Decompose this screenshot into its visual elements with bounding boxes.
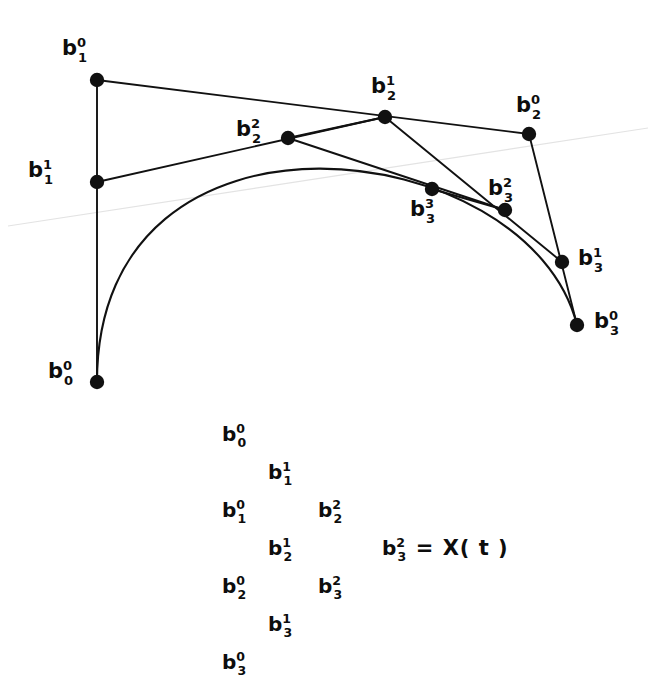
label-superscript: 1 xyxy=(43,157,52,172)
label-base: b xyxy=(516,93,531,117)
point-label-b-1-0: b01 xyxy=(62,38,95,62)
label-superscript: 0 xyxy=(236,649,245,664)
point-label-b-0-0: b00 xyxy=(48,361,81,385)
label-superscript: 1 xyxy=(282,535,291,550)
point-label-b-2-0: b02 xyxy=(516,95,549,119)
label-base: b xyxy=(318,498,332,522)
scheme-entry-7: b13 xyxy=(268,614,300,638)
point-label-b-3-1: b13 xyxy=(578,248,611,272)
label-base: b xyxy=(48,359,63,383)
label-equals-xt: = X( t ) xyxy=(416,536,509,560)
label-superscript: 0 xyxy=(609,308,618,323)
scheme-entry-1: b11 xyxy=(268,462,300,486)
label-base: b xyxy=(410,197,425,221)
control-point-dot-b-2-2 xyxy=(281,131,295,145)
label-subscript: 1 xyxy=(44,172,53,187)
scheme-result-equals-xt: b23= X( t ) xyxy=(382,538,509,562)
label-subscript: 3 xyxy=(284,625,293,640)
label-subscript: 3 xyxy=(238,663,247,678)
label-superscript: 0 xyxy=(236,497,245,512)
label-base: b xyxy=(578,246,593,270)
label-base: b xyxy=(62,36,77,60)
label-superscript: 0 xyxy=(531,92,540,107)
label-subscript: 3 xyxy=(426,211,435,226)
label-base: b xyxy=(222,574,236,598)
label-subscript: 2 xyxy=(387,88,396,103)
point-label-b-3-2: b23 xyxy=(488,178,521,202)
control-polygon-level-2 xyxy=(288,138,505,210)
label-subscript: 2 xyxy=(334,511,343,526)
point-label-b-1-1: b11 xyxy=(28,160,61,184)
label-superscript: 2 xyxy=(396,535,405,550)
label-base: b xyxy=(371,74,386,98)
label-subscript: 3 xyxy=(610,323,619,338)
label-base: b xyxy=(222,650,236,674)
control-point-dot-b-2-1 xyxy=(378,110,392,124)
label-superscript: 2 xyxy=(332,573,341,588)
label-subscript: 2 xyxy=(252,131,261,146)
scheme-entry-2: b01 xyxy=(222,500,254,524)
label-superscript: 0 xyxy=(236,573,245,588)
label-superscript: 1 xyxy=(282,459,291,474)
scheme-entry-0: b00 xyxy=(222,424,254,448)
label-base: b xyxy=(222,422,236,446)
label-subscript: 1 xyxy=(284,473,293,488)
label-superscript: 0 xyxy=(236,421,245,436)
label-subscript: 0 xyxy=(64,373,73,388)
label-subscript: 2 xyxy=(238,587,247,602)
label-base: b xyxy=(268,536,282,560)
control-point-dot-b-1-1 xyxy=(90,175,104,189)
scheme-entry-6: b23 xyxy=(318,576,350,600)
label-superscript: 2 xyxy=(251,116,260,131)
label-base: b xyxy=(28,158,43,182)
control-point-dot-b-3-0 xyxy=(570,318,584,332)
label-subscript: 2 xyxy=(284,549,293,564)
scheme-entry-5: b02 xyxy=(222,576,254,600)
label-base: b xyxy=(594,309,609,333)
label-superscript: 2 xyxy=(503,175,512,190)
label-superscript: 0 xyxy=(77,35,86,50)
label-superscript: 2 xyxy=(332,497,341,512)
control-point-dot-b-1-0 xyxy=(90,73,104,87)
label-superscript: 3 xyxy=(425,196,434,211)
label-base: b xyxy=(268,612,282,636)
label-superscript: 0 xyxy=(63,358,72,373)
point-label-b-2-2: b22 xyxy=(236,119,269,143)
label-base: b xyxy=(382,536,396,560)
point-label-b-2-1: b12 xyxy=(371,76,404,100)
label-subscript: 1 xyxy=(78,50,87,65)
scheme-entry-3: b22 xyxy=(318,500,350,524)
bezier-de-casteljau-figure: b00b01b02b03b11b12b13b22b23b33 b00b11b01… xyxy=(0,0,648,680)
label-subscript: 3 xyxy=(594,260,603,275)
label-subscript: 1 xyxy=(238,511,247,526)
label-base: b xyxy=(318,574,332,598)
label-base: b xyxy=(236,117,251,141)
label-subscript: 0 xyxy=(238,435,247,450)
label-base: b xyxy=(268,460,282,484)
label-subscript: 2 xyxy=(532,107,541,122)
control-point-dot-b-3-1 xyxy=(555,255,569,269)
label-superscript: 1 xyxy=(282,611,291,626)
label-subscript: 3 xyxy=(504,190,513,205)
control-point-dot-b-2-0 xyxy=(522,127,536,141)
label-superscript: 1 xyxy=(593,245,602,260)
control-point-dot-b-3-3 xyxy=(425,182,439,196)
label-base: b xyxy=(222,498,236,522)
label-subscript: 3 xyxy=(334,587,343,602)
point-label-b-3-3: b33 xyxy=(410,199,443,223)
label-base: b xyxy=(488,176,503,200)
label-subscript: 3 xyxy=(398,549,407,564)
control-polygon-level-1b xyxy=(288,117,385,138)
label-superscript: 1 xyxy=(386,73,395,88)
point-label-b-3-0: b03 xyxy=(594,311,627,335)
control-point-dot-b-0-0 xyxy=(90,375,104,389)
scheme-entry-4: b12 xyxy=(268,538,300,562)
scan-artifact-line xyxy=(8,128,648,226)
scheme-entry-8: b03 xyxy=(222,652,254,676)
